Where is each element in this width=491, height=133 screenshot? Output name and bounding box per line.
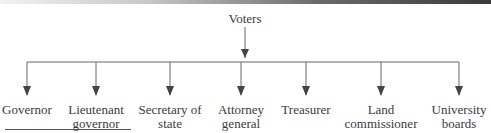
root-arrowhead-icon: [241, 49, 249, 58]
node-attorney-general: Attorney general: [218, 103, 264, 131]
node-secretary-of-state: Secretary of state: [138, 103, 201, 131]
child-arrowhead-icons: [23, 86, 463, 96]
node-governor: Governor: [2, 103, 52, 117]
bottom-underline-divider: [5, 129, 131, 130]
node-lieutenant-governor: Lieutenant governor: [68, 103, 124, 131]
node-land-commissioner: Land commissioner: [345, 103, 418, 131]
node-treasurer: Treasurer: [281, 103, 330, 117]
node-university-boards: University boards: [432, 103, 487, 131]
